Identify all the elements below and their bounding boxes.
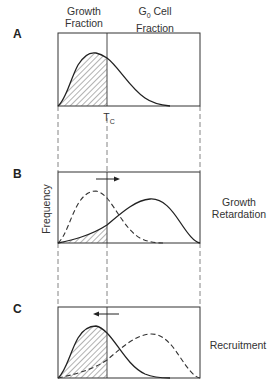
panel-b [58,172,200,243]
panel-c [58,307,200,378]
diagram-canvas [0,0,271,386]
arrow-right-icon [96,177,120,182]
arrow-left-icon [93,312,119,317]
shifted-curve-b [58,199,200,243]
panel-a [58,33,200,106]
guide-lines [58,106,200,307]
